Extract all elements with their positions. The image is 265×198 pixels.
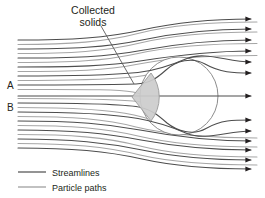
legend-particle-paths-label: Particle paths	[52, 183, 107, 193]
flow-around-collector-diagram: Collected solids A B Streamlines Particl…	[0, 0, 265, 198]
flow-label-b: B	[7, 102, 14, 113]
flow-label-a: A	[7, 80, 14, 91]
collected-solids-label-line1: Collected	[71, 4, 115, 16]
legend-streamlines-label: Streamlines	[52, 168, 100, 178]
diagram-canvas: Collected solids A B Streamlines Particl…	[0, 0, 265, 198]
collected-solids-label-line2: solids	[80, 16, 107, 28]
